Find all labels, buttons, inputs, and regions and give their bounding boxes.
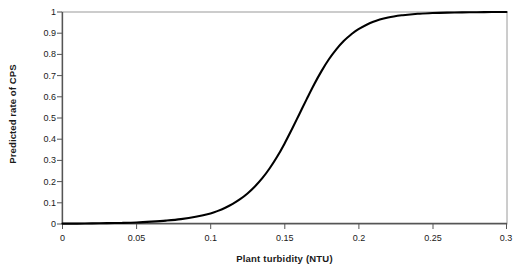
x-tick-label: 0.15 xyxy=(276,233,294,243)
x-tick-label: 0 xyxy=(60,233,65,243)
x-tick-label: 0.25 xyxy=(424,233,442,243)
x-tick-label: 0.1 xyxy=(204,233,217,243)
x-axis-title: Plant turbidity (NTU) xyxy=(62,253,507,264)
x-tick-label: 0.05 xyxy=(128,233,146,243)
x-tick-label: 0.2 xyxy=(353,233,366,243)
x-tick-label: 0.3 xyxy=(500,233,513,243)
chart-container: 0 0.1 0.2 0.3 0.4 0.5 0.6 0.7 0.8 0.9 1 … xyxy=(0,0,531,276)
y-axis-title: Predicted rate of CPS xyxy=(4,4,22,224)
x-tick-label-group: 0 0.05 0.1 0.15 0.2 0.25 0.3 xyxy=(0,0,531,276)
